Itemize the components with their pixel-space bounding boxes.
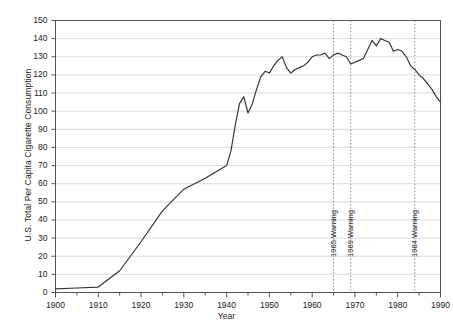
y-tick-label-0: 0: [18, 287, 48, 297]
x-axis-title: Year: [0, 311, 453, 321]
x-tick-label-1970: 1970: [335, 300, 375, 310]
y-tick-label-130: 130: [18, 51, 48, 61]
annotation-label-1984: 1984 Warning: [410, 210, 419, 257]
y-tick-label-120: 120: [18, 69, 48, 79]
y-tick-label-100: 100: [18, 106, 48, 116]
y-tick-label-10: 10: [18, 269, 48, 279]
y-tick-label-40: 40: [18, 214, 48, 224]
x-tick-label-1910: 1910: [78, 300, 118, 310]
plot-border: [56, 21, 441, 293]
x-tick-label-1920: 1920: [121, 300, 161, 310]
y-tick-group: [52, 21, 56, 293]
x-tick-label-1990: 1990: [421, 300, 453, 310]
y-tick-label-90: 90: [18, 124, 48, 134]
y-tick-label-50: 50: [18, 196, 48, 206]
annotation-label-1969: 1969 Warning: [346, 210, 355, 257]
y-tick-label-150: 150: [18, 15, 48, 25]
y-tick-label-20: 20: [18, 251, 48, 261]
cigarette-consumption-chart: U.S. Total Per Capita Cigarette Consumpt…: [0, 0, 453, 330]
chart-canvas: [0, 0, 453, 330]
y-tick-label-140: 140: [18, 33, 48, 43]
x-tick-group: [56, 293, 441, 298]
x-tick-label-1980: 1980: [378, 300, 418, 310]
data-line-series: [56, 39, 441, 289]
y-tick-label-30: 30: [18, 233, 48, 243]
annotation-label-1965: 1965 Warning: [329, 210, 338, 257]
y-tick-label-110: 110: [18, 88, 48, 98]
y-tick-label-80: 80: [18, 142, 48, 152]
y-tick-label-70: 70: [18, 160, 48, 170]
x-tick-label-1950: 1950: [249, 300, 289, 310]
gridline-group: [56, 39, 441, 275]
y-tick-label-60: 60: [18, 178, 48, 188]
x-tick-label-1940: 1940: [207, 300, 247, 310]
x-tick-label-1900: 1900: [36, 300, 76, 310]
x-tick-label-1960: 1960: [292, 300, 332, 310]
x-tick-label-1930: 1930: [164, 300, 204, 310]
